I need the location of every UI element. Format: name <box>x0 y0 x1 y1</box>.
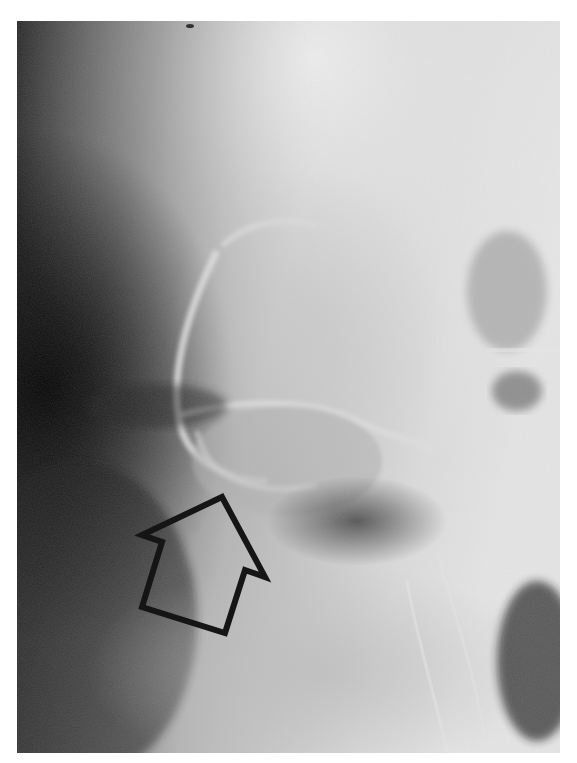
radiograph-rendering <box>17 21 560 753</box>
radiograph-image <box>17 21 560 753</box>
